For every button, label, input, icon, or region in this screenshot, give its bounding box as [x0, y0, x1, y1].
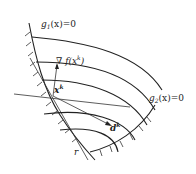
- g1-hatching: [25, 32, 77, 142]
- constraint-g2-curve: [90, 105, 155, 152]
- label-xk: xk: [53, 83, 64, 95]
- contour-1: [32, 37, 162, 90]
- label-g2: g2(x)=0: [149, 93, 184, 104]
- label-gradient: ∇ f(xk): [56, 54, 85, 66]
- feasible-direction-diagram: g1(x)=0 ∇ f(xk) xk g2(x)=0 dk r: [0, 0, 196, 174]
- contour-4: [44, 112, 135, 140]
- label-g1: g1(x)=0: [41, 19, 76, 30]
- label-dk: dk: [110, 121, 120, 133]
- label-r: r: [74, 147, 79, 157]
- constraint-g1-curve: [29, 23, 95, 160]
- tangent-line-f: [14, 94, 130, 107]
